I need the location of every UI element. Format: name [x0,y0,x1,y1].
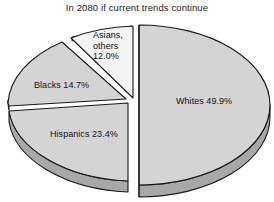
pie-slice-hispanics[interactable] [9,103,128,192]
pie-chart-figure: In 2080 if current trends continue [0,0,274,202]
pie-label-asians-others: Asians, others 12.0% [93,30,123,62]
pie-label-whites: Whites 49.9% [176,96,232,107]
pie-slice-hispanics-top [9,103,128,181]
pie-slice-whites[interactable] [139,25,270,197]
pie-chart-graphic [0,0,274,202]
pie-label-blacks: Blacks 14.7% [34,80,89,91]
pie-label-hispanics: Hispanics 23.4% [50,129,118,140]
